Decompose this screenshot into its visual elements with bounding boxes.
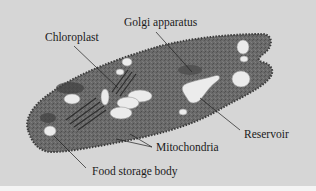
label-food-storage-body: Food storage body bbox=[92, 166, 178, 178]
label-reservoir: Reservoir bbox=[244, 129, 289, 141]
label-mitochondria: Mitochondria bbox=[156, 142, 219, 154]
label-chloroplast: Chloroplast bbox=[45, 32, 99, 44]
label-golgi-apparatus: Golgi apparatus bbox=[124, 17, 197, 29]
micrograph-figure: Golgi apparatus Chloroplast Reservoir Mi… bbox=[0, 0, 316, 186]
bottom-margin bbox=[0, 186, 316, 191]
